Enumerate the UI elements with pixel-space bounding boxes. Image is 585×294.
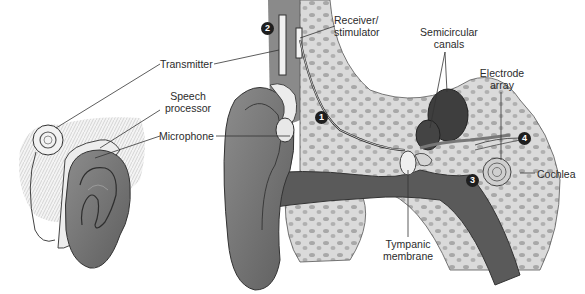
label-tympanic-line1: Tympanic [382, 238, 434, 250]
marker-4: 4 [518, 132, 531, 145]
label-electrode-line1: Electrode [478, 67, 526, 79]
label-receiver-stimulator: Receiver/ stimulator [334, 14, 380, 38]
label-transmitter: Transmitter [160, 58, 213, 70]
label-tympanic-line2: membrane [382, 250, 434, 262]
label-speech-processor-line1: Speech [163, 90, 213, 102]
label-semicircular-canals: Semicircular canals [417, 26, 481, 50]
label-semicircular-line1: Semicircular [417, 26, 481, 38]
marker-2: 2 [261, 22, 274, 35]
label-receiver-line1: Receiver/ [334, 14, 380, 26]
label-cochlea: Cochlea [537, 168, 576, 180]
label-receiver-line2: stimulator [334, 26, 380, 38]
label-electrode-line2: array [478, 79, 526, 91]
external-ear-group [19, 117, 145, 268]
label-speech-processor: Speech processor [163, 90, 213, 114]
label-semicircular-line2: canals [417, 38, 481, 50]
marker-1: 1 [315, 111, 328, 124]
label-electrode-array: Electrode array [478, 67, 526, 91]
label-speech-processor-line2: processor [163, 102, 213, 114]
label-tympanic-membrane: Tympanic membrane [382, 238, 434, 262]
marker-3: 3 [466, 174, 479, 187]
label-microphone: Microphone [159, 130, 214, 142]
diagram-illustration [0, 0, 585, 294]
cochlear-implant-diagram: Transmitter Speech processor Microphone … [0, 0, 585, 294]
